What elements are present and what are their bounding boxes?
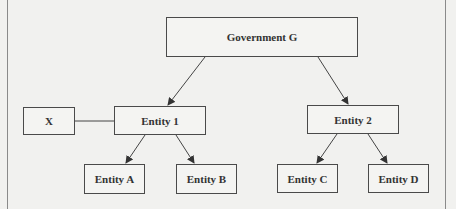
node-government-g: Government G: [166, 17, 358, 57]
edge-gov-entity1: [168, 57, 205, 105]
edge-gov-entity2: [318, 57, 348, 104]
node-label: Entity C: [287, 173, 327, 185]
node-entity-2: Entity 2: [307, 105, 399, 134]
edge-entity2-entityC: [317, 134, 337, 163]
edge-entity1-entityB: [176, 135, 194, 163]
node-entity-d: Entity D: [368, 164, 429, 193]
node-label: Entity B: [187, 173, 226, 185]
edge-entity2-entityD: [368, 134, 387, 163]
node-x: X: [23, 107, 75, 135]
edge-entity1-entityA: [126, 135, 145, 163]
node-label: Entity A: [95, 173, 134, 185]
node-entity-a: Entity A: [84, 164, 145, 194]
node-label: Entity 1: [141, 115, 179, 127]
node-label: Government G: [227, 31, 298, 43]
node-label: X: [45, 115, 53, 127]
node-label: Entity 2: [334, 114, 372, 126]
node-entity-b: Entity B: [176, 164, 237, 194]
node-label: Entity D: [378, 173, 418, 185]
node-entity-c: Entity C: [277, 164, 338, 193]
node-entity-1: Entity 1: [114, 106, 206, 135]
